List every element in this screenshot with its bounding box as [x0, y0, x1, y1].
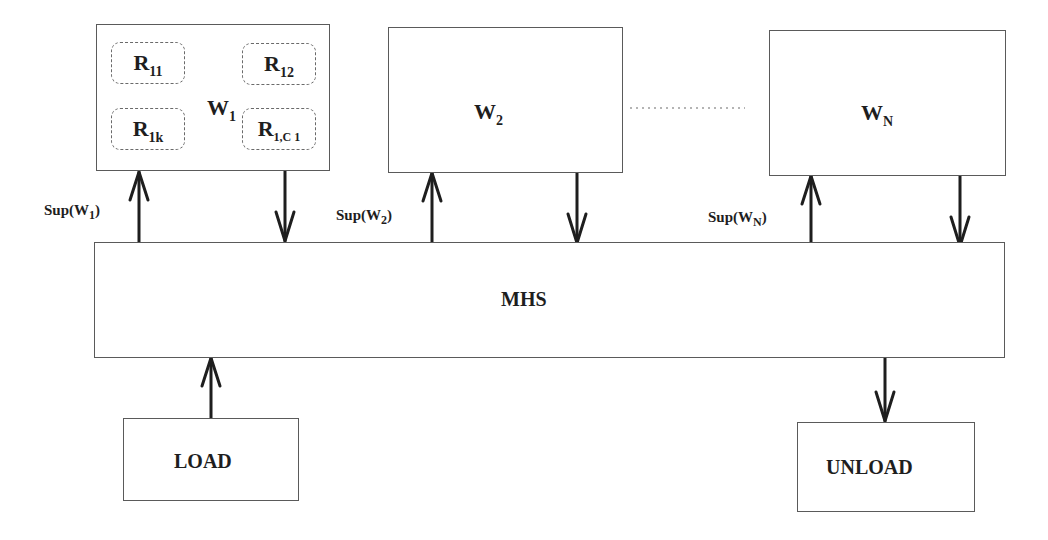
- arrow-up-w2: [423, 173, 441, 242]
- arrow-down-w2: [568, 173, 586, 243]
- workstation-w1[interactable]: R11 R12 R1k R1,C 1 W1: [96, 24, 330, 171]
- supply-label-w2: Sup(W2): [336, 208, 392, 223]
- arrow-up-w1: [130, 172, 148, 242]
- supply-label-wn: Sup(WN): [708, 210, 767, 225]
- load-box[interactable]: LOAD: [123, 418, 299, 501]
- arrow-up-wn: [802, 176, 820, 245]
- unload-box[interactable]: UNLOAD: [797, 422, 975, 512]
- mhs-label: MHS: [501, 289, 547, 309]
- unload-label: UNLOAD: [826, 457, 913, 477]
- arrow-down-unload: [876, 358, 894, 421]
- arrow-down-wn: [951, 176, 969, 246]
- workstation-wn[interactable]: WN: [769, 30, 1006, 176]
- workstation-w2[interactable]: W2: [388, 27, 623, 173]
- workstation-w2-label: W2: [474, 101, 503, 123]
- arrow-down-w1: [276, 170, 294, 241]
- load-label: LOAD: [174, 451, 232, 471]
- workstation-w1-label: W1: [207, 97, 236, 119]
- resource-r11[interactable]: R11: [111, 42, 185, 84]
- mhs-box[interactable]: MHS: [94, 242, 1005, 358]
- resource-r12[interactable]: R12: [242, 43, 316, 85]
- resource-r1k[interactable]: R1k: [111, 108, 185, 150]
- supply-label-w1: Sup(W1): [44, 203, 100, 218]
- resource-r1c1[interactable]: R1,C 1: [242, 108, 316, 150]
- arrow-up-load: [202, 358, 220, 418]
- workstation-wn-label: WN: [861, 102, 893, 124]
